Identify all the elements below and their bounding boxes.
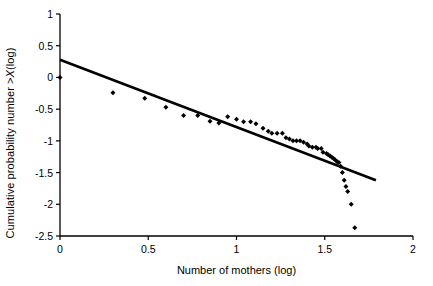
data-point-marker bbox=[225, 114, 230, 119]
plot-area bbox=[0, 0, 433, 286]
data-point-marker bbox=[248, 119, 253, 124]
data-point-marker bbox=[208, 119, 213, 124]
fit-line bbox=[60, 60, 376, 181]
data-point-marker bbox=[349, 202, 354, 207]
data-points bbox=[58, 75, 358, 230]
data-point-marker bbox=[280, 131, 285, 136]
data-point-marker bbox=[253, 121, 258, 126]
data-point-marker bbox=[275, 131, 280, 136]
data-point-marker bbox=[241, 119, 246, 124]
data-point-marker bbox=[345, 189, 350, 194]
data-point-marker bbox=[163, 105, 168, 110]
data-point-marker bbox=[58, 75, 63, 80]
data-point-marker bbox=[142, 96, 147, 101]
data-point-marker bbox=[342, 178, 347, 183]
data-point-marker bbox=[352, 225, 357, 230]
data-point-marker bbox=[234, 117, 239, 122]
axes bbox=[60, 14, 413, 236]
data-point-marker bbox=[340, 170, 345, 175]
chart-figure: Cumulative probability number >X (log) N… bbox=[0, 0, 433, 286]
regression-line bbox=[60, 60, 376, 181]
data-point-marker bbox=[181, 113, 186, 118]
data-point-marker bbox=[110, 90, 115, 95]
data-point-marker bbox=[343, 184, 348, 189]
data-point-marker bbox=[260, 126, 265, 131]
